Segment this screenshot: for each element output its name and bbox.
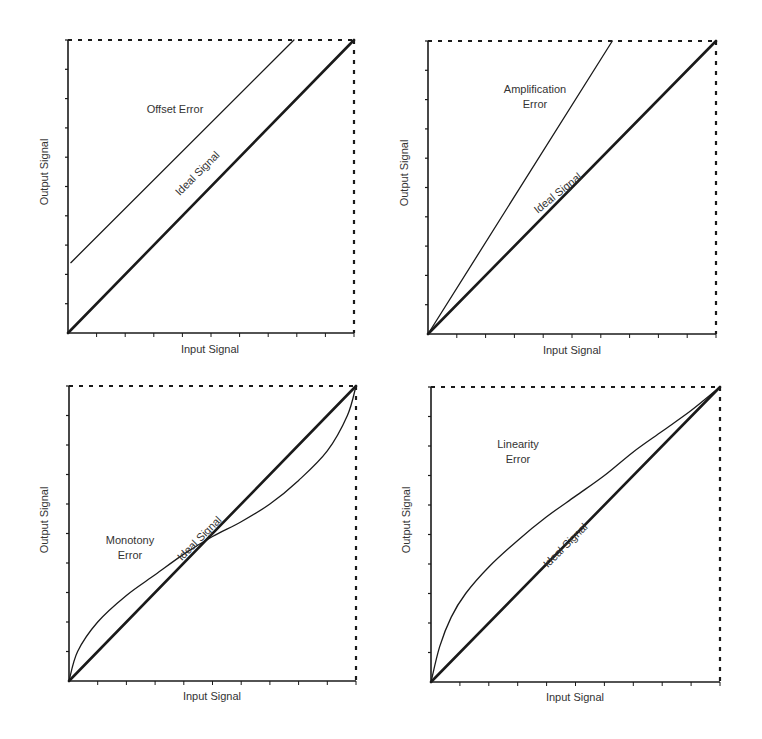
error-label-line2: Error [523,98,548,110]
panel-linearity-error: Linearity Error Ideal Signal Input Signa… [400,387,720,703]
error-label-line2: Error [506,453,531,465]
x-axis-label: Input Signal [181,343,239,355]
error-types-figure: Offset Error Ideal Signal Input Signal O… [0,0,762,739]
ideal-signal-label: Ideal Signal [175,514,224,563]
x-axis-label: Input Signal [183,690,241,702]
y-axis-label: Output Signal [398,140,410,207]
ideal-signal-label: Ideal Signal [173,149,222,198]
error-label: Offset Error [147,103,204,115]
plot-series [68,40,354,333]
x-axis-label: Input Signal [543,344,601,356]
ideal-signal-label: Ideal Signal [531,170,583,216]
ideal-signal-line [68,40,354,333]
y-axis-label: Output Signal [400,487,412,554]
y-axis-label: Output Signal [38,139,50,206]
error-label-line1: Linearity [497,438,539,450]
offset-error-line [71,40,294,263]
error-label-line1: Monotony [106,534,155,546]
panel-offset-error: Offset Error Ideal Signal Input Signal O… [38,40,354,355]
error-label-line2: Error [118,549,143,561]
y-axis-label: Output Signal [38,487,50,554]
x-axis-label: Input Signal [546,691,604,703]
panel-amplification-error: Amplification Error Ideal Signal Input S… [398,41,716,356]
ideal-signal-label: Ideal Signal [541,521,590,570]
panel-monotony-error: Monotony Error Ideal Signal Input Signal… [38,386,356,702]
error-label-line1: Amplification [504,83,566,95]
